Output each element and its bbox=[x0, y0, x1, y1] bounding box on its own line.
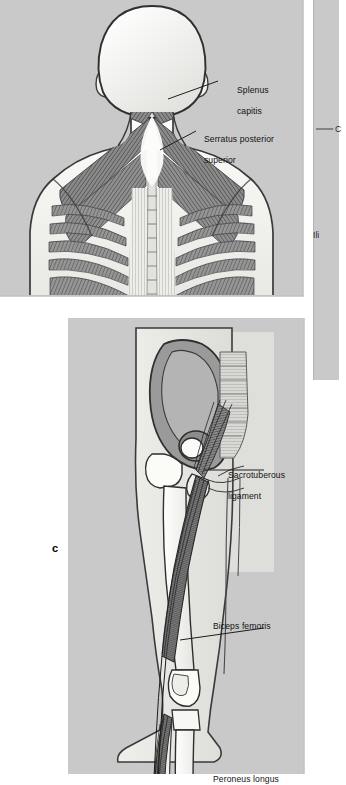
head-occiput bbox=[98, 6, 205, 118]
label-biceps-femoris: Biceps femoris bbox=[213, 621, 271, 632]
tibial-plateau bbox=[172, 710, 200, 730]
panel-a-bottom-edge bbox=[0, 295, 304, 297]
panel-letter-c: c bbox=[52, 542, 58, 554]
clipped-label-lower: Ili bbox=[313, 230, 329, 241]
label-splenius-capitis-line2: capitis bbox=[237, 106, 262, 116]
label-sacrotuberous-ligament: Sacrotuberous ligament bbox=[213, 459, 285, 512]
label-sacrotuberous-line1: Sacrotuberous bbox=[228, 470, 285, 480]
label-serratus-line1: Serratus posterior bbox=[204, 134, 274, 144]
label-splenius-capitis: Splenus capitis bbox=[222, 74, 269, 127]
lower-limb-illustration bbox=[68, 318, 305, 774]
clipped-leader-lines bbox=[314, 0, 339, 380]
label-peroneus-longus: Peroneus longus bbox=[213, 774, 279, 785]
spinous-process-column bbox=[147, 180, 157, 297]
label-serratus-line2: superior bbox=[204, 155, 236, 165]
label-serratus-posterior-superior: Serratus posterior superior bbox=[189, 123, 274, 176]
label-sacrotuberous-line2: ligament bbox=[228, 491, 261, 501]
panel-lower-limb: Sacrotuberous ligament Biceps femoris Pe… bbox=[68, 318, 305, 774]
patella bbox=[172, 674, 189, 696]
panel-a-right-edge bbox=[302, 0, 304, 297]
panel-adjacent-clipped: C Ili bbox=[313, 0, 339, 380]
label-splenius-capitis-line1: Splenus bbox=[237, 85, 269, 95]
panel-posterior-back: Splenus capitis Serratus posterior super… bbox=[0, 0, 304, 297]
greater-trochanter bbox=[146, 454, 182, 488]
panel-c-right-edge bbox=[303, 318, 305, 774]
clipped-label-upper: C bbox=[335, 124, 346, 135]
